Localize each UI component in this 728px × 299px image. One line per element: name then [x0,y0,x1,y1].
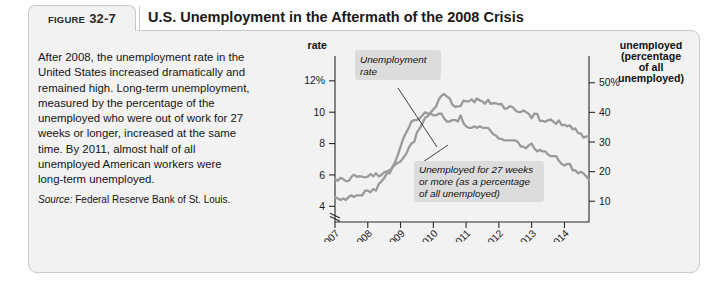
caption-source: Source: Federal Reserve Bank of St. Loui… [38,193,250,206]
right-axis-tick-label: 20 [599,166,611,177]
unemployment-rate-annotation-line1: Unemployment [360,54,428,65]
figure-word: FIGURE [48,14,85,25]
page-title: U.S. Unemployment in the Aftermath of th… [148,9,524,25]
title-divider [139,6,140,31]
left-axis-tick-label: 6 [319,170,325,181]
figure-number: 32-7 [89,11,116,26]
caption-block: After 2008, the unemployment rate in the… [38,50,250,206]
right-axis-tick-label: 30 [599,137,611,148]
unemployment-chart: 12%1086450%40302010200720082009201020112… [255,42,710,242]
long-term-annotation-line2: or more (as a percentage [419,176,530,187]
right-axis-tick-label: 40 [599,107,611,118]
figure-panel: FIGURE32-7 U.S. Unemployment in the Afte… [0,0,728,299]
figure-number-label: FIGURE32-7 [48,11,116,26]
caption-body: After 2008, the unemployment rate in the… [38,51,249,185]
x-axis-tick-label: 2012 [481,227,505,242]
long-term-annotation-line3: of all unemployed) [419,188,500,199]
long-term-annotation-line1: Unemployed for 27 weeks [419,164,533,175]
left-axis-title: rate [308,42,328,51]
x-axis-tick-label: 2014 [547,227,571,242]
source-text: Federal Reserve Bank of St. Louis. [72,194,230,205]
long-term-leader-line [423,145,448,162]
x-axis-tick-label: 2013 [514,227,538,242]
source-label: Source: [38,194,72,205]
x-axis-tick-label: 2007 [318,227,342,242]
x-axis-tick-label: 2008 [350,227,374,242]
right-axis-tick-label: 10 [599,196,611,207]
chart-svg: 12%1086450%40302010200720082009201020112… [255,42,710,242]
x-axis-tick-label: 2009 [383,227,407,242]
left-axis-tick-label: 12% [304,75,325,86]
x-axis-tick-label: 2011 [449,227,473,242]
left-axis-tick-label: 10 [313,107,325,118]
left-axis-tick-label: 8 [319,138,325,149]
right-axis-tick-label: 50% [599,77,620,88]
x-axis-tick-label: 2010 [416,227,440,242]
figure-number-tab: FIGURE32-7 [28,5,136,31]
unemployment-rate-annotation-line2: rate [360,66,378,77]
left-axis-tick-label: 4 [319,201,325,212]
right-axis-title: unemployed) [618,72,684,84]
